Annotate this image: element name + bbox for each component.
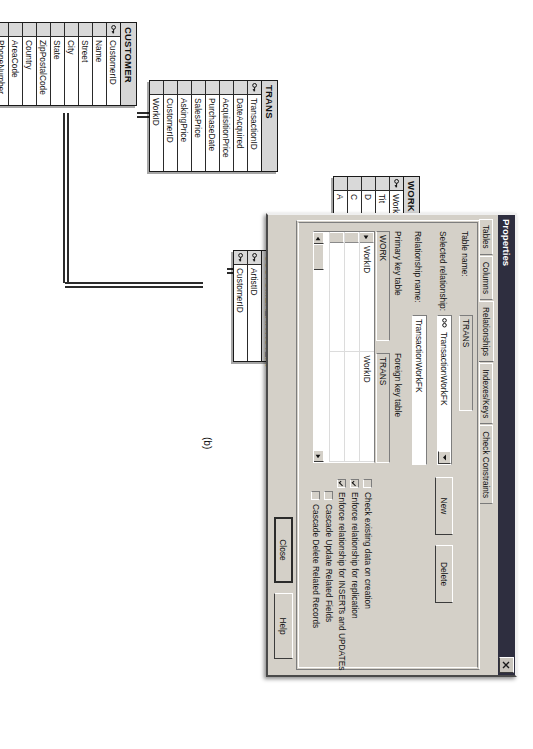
er-table-customer-title: CUSTOMER [120,23,136,105]
er-column-name: Country [25,37,35,69]
row-selector[interactable] [345,232,359,243]
er-column-name: CustomerID [166,95,176,143]
selected-relationship-label: Selected relationship: [438,231,448,311]
primary-key-column-cell[interactable]: WorkID [360,243,374,353]
key-columns-grid[interactable]: WorkID WorkID [313,231,375,463]
er-table-trans-columns: TransactionID DateAcquired AcquisitionPr… [150,81,261,171]
er-column-row[interactable]: DateAcquired [233,81,247,171]
new-button[interactable]: New [435,477,453,535]
properties-dialog[interactable]: Properties Tables Columns Relationships … [266,213,517,677]
er-column-name: D [364,191,374,200]
key-slot [0,23,8,37]
selected-relationship-value: TransactionWorkFK [440,329,450,451]
er-column-row[interactable]: CustomerID [163,81,177,171]
key-slot [334,177,347,191]
key-slot [164,81,177,95]
er-column-row[interactable]: AskingPrice [177,81,191,171]
close-button[interactable]: Close [274,517,293,583]
scrollbar-thumb[interactable] [313,244,324,270]
tab-relationships[interactable]: Relationships [479,301,494,362]
er-column-row[interactable]: ArtistID [247,251,261,361]
er-table-trans-title: TRANS [261,81,277,171]
relationship-icon [441,316,448,329]
er-column-name: AcquisitionPrice [222,95,232,158]
er-column-row[interactable]: CustomerID [234,251,247,361]
grid-cell-empty[interactable] [345,352,359,462]
key-slot [150,81,163,95]
er-column-name: WorkID [152,95,162,126]
er-column-row[interactable]: TransactionID [247,81,261,171]
tab-tables[interactable]: Tables [479,219,493,255]
grid-horizontal-scrollbar[interactable] [313,232,324,462]
er-column-row[interactable]: SalesPrice [191,81,205,171]
er-column-row[interactable]: City [64,23,78,105]
key-slot [23,23,36,37]
key-slot [178,81,191,95]
checkbox-box[interactable] [311,491,320,500]
row-selector[interactable] [330,232,344,243]
checkbox-enforce-insert-update[interactable]: Enforce relationship for INSERTs and UPD… [337,479,346,670]
er-column-row[interactable]: Name [92,23,106,105]
er-table-trans[interactable]: TRANS TransactionID DateAcquired Acquisi… [149,80,278,172]
scroll-left-icon[interactable] [313,232,324,244]
checkbox-box[interactable] [324,491,333,500]
checkbox-cascade-delete[interactable]: Cascade Delete Related Records [311,491,320,628]
help-button[interactable]: Help [274,593,293,659]
tab-check-constraints[interactable]: Check Constraints [479,425,493,504]
checkbox-enforce-replication[interactable]: Enforce relationship for replication [350,479,359,619]
dialog-tabs[interactable]: Tables Columns Relationships Indexes/Key… [479,215,498,675]
dialog-titlebar[interactable]: Properties [498,215,515,675]
dialog-title: Properties [501,219,512,266]
er-column-row[interactable]: WorkID [150,81,163,171]
primary-key-table-label: Primary key table [393,231,403,296]
checkbox-box[interactable] [337,479,346,488]
checkbox-box[interactable] [363,479,372,488]
er-column-name: AskingPrice [180,95,190,142]
er-column-row[interactable]: State [50,23,64,105]
er-column-row[interactable]: Country [22,23,36,105]
foreign-key-table-value: TRANS [376,353,390,463]
foreign-key-column-cell[interactable]: WorkID [360,352,374,462]
grid-row[interactable] [344,232,359,462]
grid-cell-empty[interactable] [330,243,344,353]
relation-line-cai-v [65,282,203,284]
checkbox-cascade-update[interactable]: Cascade Update Related Fields [324,491,333,622]
er-column-row[interactable]: AcquisitionPrice [219,81,233,171]
er-column-row[interactable]: CustomerID [106,23,120,105]
delete-button[interactable]: Delete [435,545,453,603]
relation-line-cai-h [68,113,70,283]
checkbox-box[interactable] [350,479,359,488]
selected-relationship-combo[interactable]: TransactionWorkFK [437,315,452,465]
er-column-name: City [67,37,77,54]
primary-key-icon [234,251,247,265]
primary-key-table-value: WORK [376,231,390,341]
er-column-row[interactable]: AreaCode [8,23,22,105]
primary-key-icon [107,23,120,37]
scrollbar-track[interactable] [313,270,324,450]
er-column-name: A [336,191,346,200]
tab-indexes-keys[interactable]: Indexes/Keys [479,363,493,424]
primary-key-icon [248,251,261,265]
key-slot [206,81,219,95]
er-column-row[interactable]: Street [78,23,92,105]
er-column-name: ArtistID [250,265,260,295]
checkbox-check-existing-data[interactable]: Check existing data on creation [363,479,372,609]
er-column-row[interactable]: PhoneNumber [0,23,8,105]
close-icon[interactable] [499,657,514,673]
checkbox-label: Enforce relationship for INSERTs and UPD… [337,492,346,670]
er-column-row[interactable]: PurchaseDate [205,81,219,171]
er-table-customer[interactable]: CUSTOMER CustomerID Name Street City Sta… [0,22,137,106]
er-column-name: CustomerID [109,37,119,85]
grid-row[interactable] [329,232,344,462]
row-selector[interactable] [360,232,374,243]
grid-row[interactable]: WorkID WorkID [359,232,374,462]
er-column-name: Tit [378,191,388,203]
checkbox-label: Cascade Update Related Fields [324,504,333,622]
relationship-name-input[interactable]: TransactionWorkFK [412,315,427,465]
scroll-right-icon[interactable] [313,450,324,462]
grid-cell-empty[interactable] [345,243,359,353]
tab-columns[interactable]: Columns [479,256,493,300]
er-column-row[interactable]: ZipPostalCode [36,23,50,105]
chevron-down-icon[interactable] [438,451,451,464]
grid-cell-empty[interactable] [330,352,344,462]
